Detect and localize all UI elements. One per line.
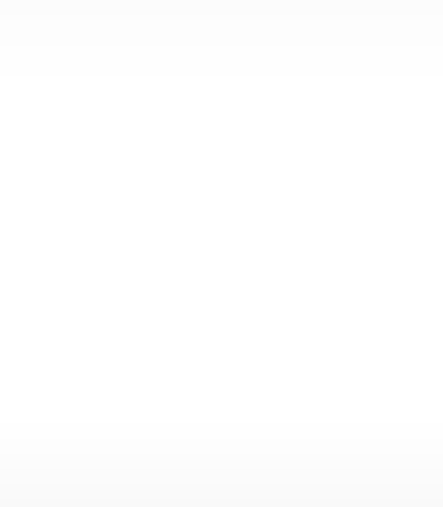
figure-two-panel-ventilation bbox=[0, 0, 443, 507]
ventilation-time-series-svg bbox=[0, 0, 443, 507]
figure-background bbox=[0, 0, 443, 507]
